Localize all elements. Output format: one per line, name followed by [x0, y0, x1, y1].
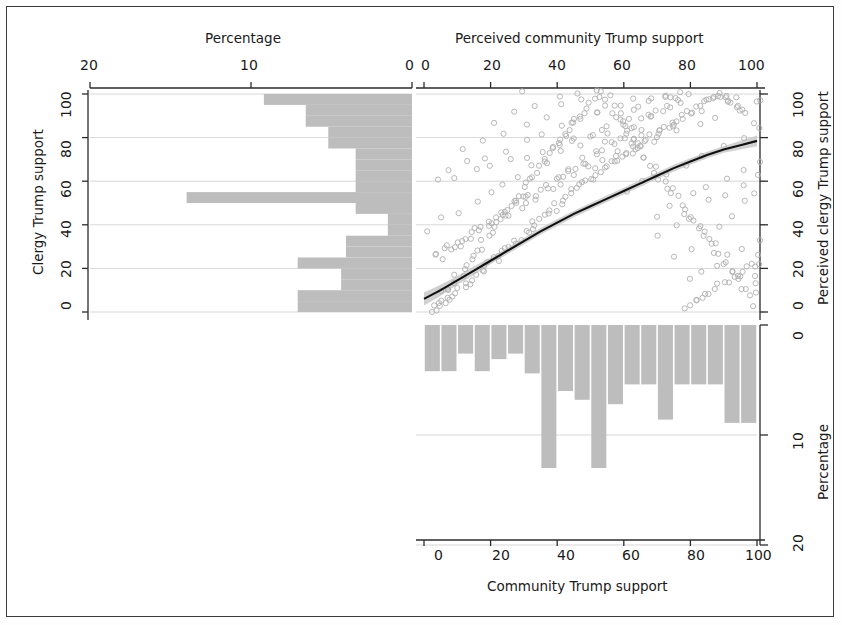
- axes-layer: [82, 82, 768, 546]
- confidence-band: [424, 135, 757, 305]
- scatter-points: [425, 88, 763, 315]
- plot-canvas: [0, 0, 842, 625]
- figure-container: Percentage Perceived community Trump sup…: [0, 0, 842, 625]
- left-histogram: [187, 94, 412, 312]
- bottom-histogram: [425, 325, 756, 468]
